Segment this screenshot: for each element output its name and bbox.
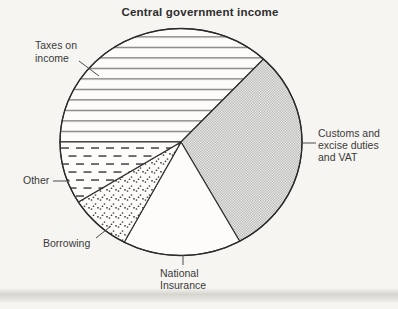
slice-label-customs-and-excise-duties-and-vat: Customs andexcise dutiesand VAT [318,127,380,163]
slice-label-other: Other [23,174,50,186]
slice-label-taxes-on-income: Taxes onincome [35,39,77,64]
pie-slices [60,29,302,256]
chart-title: Central government income [121,6,278,18]
pie-chart: Central government income Taxes onincome… [0,0,398,309]
slice-label-national-insurance: NationalInsurance [160,267,206,291]
page-root: Central government income Taxes onincome… [0,0,398,309]
slice-label-borrowing: Borrowing [43,237,90,249]
